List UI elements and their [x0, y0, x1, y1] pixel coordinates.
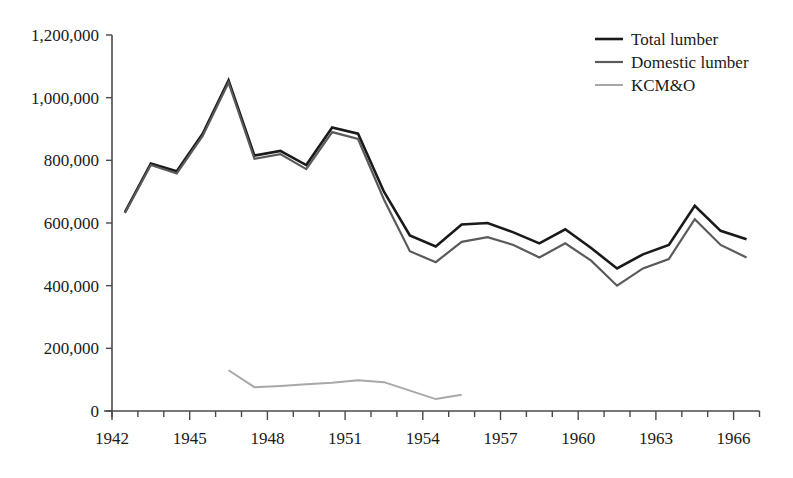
x-tick-label: 1942	[95, 429, 129, 448]
x-tick-label: 1951	[328, 429, 362, 448]
x-tick-label: 1954	[406, 429, 441, 448]
y-tick-label: 0	[91, 402, 100, 421]
chart-legend: Total lumberDomestic lumberKCM&O	[595, 30, 749, 95]
y-tick-label: 1,000,000	[31, 89, 99, 108]
x-tick-label: 1966	[717, 429, 751, 448]
x-tick-label: 1960	[561, 429, 595, 448]
x-tick-label: 1957	[484, 429, 519, 448]
series-group	[125, 80, 747, 399]
line-chart: 0200,000400,000600,000800,0001,000,0001,…	[0, 0, 793, 478]
series-line	[125, 83, 747, 286]
y-tick-label: 200,000	[44, 339, 99, 358]
series-line	[125, 80, 747, 268]
y-tick-label: 1,200,000	[31, 26, 99, 45]
legend-label: Domestic lumber	[631, 53, 749, 72]
y-tick-label: 800,000	[44, 151, 99, 170]
chart-container: 0200,000400,000600,000800,0001,000,0001,…	[0, 0, 793, 478]
x-tick-label: 1945	[173, 429, 207, 448]
y-tick-label: 400,000	[44, 277, 99, 296]
x-axis-tick-group: 194219451948195119541957196019631966	[95, 411, 760, 448]
series-line	[229, 370, 462, 399]
y-axis-tick-group: 0200,000400,000600,000800,0001,000,0001,…	[31, 26, 112, 421]
y-tick-label: 600,000	[44, 214, 99, 233]
legend-label: KCM&O	[631, 76, 695, 95]
legend-label: Total lumber	[631, 30, 718, 49]
x-tick-label: 1948	[250, 429, 284, 448]
x-tick-label: 1963	[639, 429, 673, 448]
